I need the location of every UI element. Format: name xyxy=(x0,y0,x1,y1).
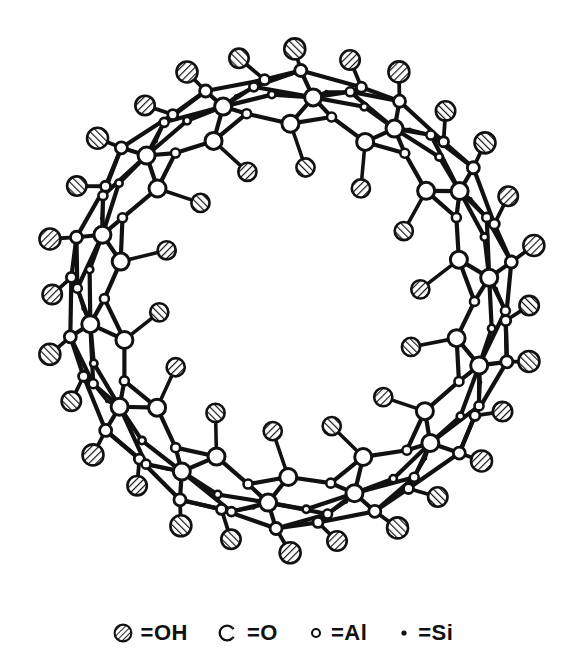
oh-group-atom xyxy=(87,128,108,149)
oh-group-atom xyxy=(83,444,104,465)
oh-group-atom xyxy=(238,163,256,181)
aluminium-atom xyxy=(183,117,190,124)
oh-group-atom xyxy=(67,176,86,195)
aluminium-atom xyxy=(98,191,107,200)
nanotube-cross-section-figure: =OH =O =Al xyxy=(0,0,565,665)
oh-group-atom xyxy=(518,351,539,372)
aluminium-atom xyxy=(160,118,169,127)
bond xyxy=(70,277,71,337)
legend-item-oh: =OH xyxy=(112,620,188,646)
oxygen-atom xyxy=(208,448,225,465)
aluminium-atom xyxy=(410,473,419,482)
oxygen-atom xyxy=(280,468,297,485)
aluminium-atom xyxy=(452,213,461,222)
aluminium-atom xyxy=(73,284,82,293)
oxygen-atom xyxy=(450,251,467,268)
oh-group-atom xyxy=(39,228,60,249)
aluminium-atom xyxy=(361,103,368,110)
oh-group-atom xyxy=(150,303,168,321)
aluminium-atom xyxy=(171,443,180,452)
oxygen-atom xyxy=(200,85,212,97)
oxygen-atom xyxy=(260,494,277,511)
oh-group-atom xyxy=(402,338,420,356)
aluminium-atom xyxy=(171,149,180,158)
oxygen-atom xyxy=(138,147,155,164)
oxygen-atom xyxy=(453,447,465,459)
oxygen-atom xyxy=(481,269,498,286)
oh-group-atom xyxy=(264,422,282,440)
oxygen-atom xyxy=(115,142,127,154)
aluminium-atom xyxy=(501,306,510,315)
aluminium-atom xyxy=(323,510,332,519)
oh-group-atom xyxy=(62,392,81,411)
oh-group-atom xyxy=(327,531,346,550)
oh-group-atom xyxy=(296,158,314,176)
oxygen-atom xyxy=(356,82,366,92)
oxygen-atom xyxy=(448,330,465,347)
oxygen-atom xyxy=(112,253,129,270)
oh-group-atom xyxy=(39,344,60,365)
oxygen-atom xyxy=(149,180,166,197)
silicon-atom xyxy=(469,197,473,201)
oxygen-atom xyxy=(100,424,112,436)
silicon-atom xyxy=(252,506,256,510)
aluminium-atom xyxy=(326,479,335,488)
oxygen-atom xyxy=(394,95,406,107)
aluminium-atom xyxy=(426,131,435,140)
silicon-atom xyxy=(408,127,412,131)
aluminium-atom xyxy=(227,507,236,516)
oh-group-atom xyxy=(43,285,62,304)
silicon-atom xyxy=(154,139,158,143)
silicon-atom xyxy=(494,287,498,291)
oxygen-atom xyxy=(355,448,372,465)
oxygen-atom xyxy=(173,463,190,480)
aluminium-atom xyxy=(435,153,442,160)
aluminium-atom xyxy=(454,377,463,386)
oh-group-atom xyxy=(176,62,197,83)
oxygen-atom xyxy=(386,120,403,137)
oh-group-atom xyxy=(387,517,408,538)
silicon-atom xyxy=(166,467,170,471)
aluminium-atom xyxy=(242,109,251,118)
oh-group-atom xyxy=(499,187,518,206)
aluminium-atom xyxy=(100,294,109,303)
oh-group-atom xyxy=(523,235,544,256)
oxygen-atom xyxy=(471,357,488,374)
aluminium-atom xyxy=(89,379,98,388)
oh-group-atom xyxy=(493,402,512,421)
legend-item-o: =O xyxy=(218,620,278,646)
oxygen-atom xyxy=(346,485,363,502)
legend-label-al: =Al xyxy=(331,620,367,646)
aluminium-atom xyxy=(482,213,491,222)
oxygen-atom xyxy=(416,403,433,420)
oxygen-atom xyxy=(369,505,381,517)
oxygen-atom xyxy=(205,132,222,149)
legend-label-si: =Si xyxy=(418,620,453,646)
aluminium-atom xyxy=(138,437,145,444)
oh-group-atom xyxy=(127,476,146,495)
oh-group-atom xyxy=(471,450,492,471)
aluminium-atom xyxy=(475,401,484,410)
oh-group-atom xyxy=(229,49,248,68)
oh-group-atom xyxy=(388,61,409,82)
legend-spacer-1 xyxy=(188,632,218,633)
oxygen-atom xyxy=(94,226,111,243)
silicon-atom xyxy=(100,217,104,221)
aluminium-atom xyxy=(244,480,253,489)
oxygen-atom xyxy=(64,331,76,343)
oxygen-atom xyxy=(422,435,439,452)
oh-group-atom xyxy=(475,132,496,153)
aluminium-atom xyxy=(481,233,488,240)
oxygen-atom xyxy=(215,98,232,115)
filled-dot-icon xyxy=(397,622,411,644)
oxygen-atom xyxy=(439,137,449,147)
aluminium-atom xyxy=(488,325,495,332)
oxygen-atom xyxy=(101,181,111,191)
oxygen-atom xyxy=(149,399,166,416)
oxygen-atom xyxy=(168,110,178,120)
oh-group-atom xyxy=(519,296,538,315)
bond xyxy=(301,71,362,88)
ring-diagram xyxy=(0,0,565,600)
oxygen-atom xyxy=(66,272,76,282)
aluminium-atom xyxy=(327,112,336,121)
